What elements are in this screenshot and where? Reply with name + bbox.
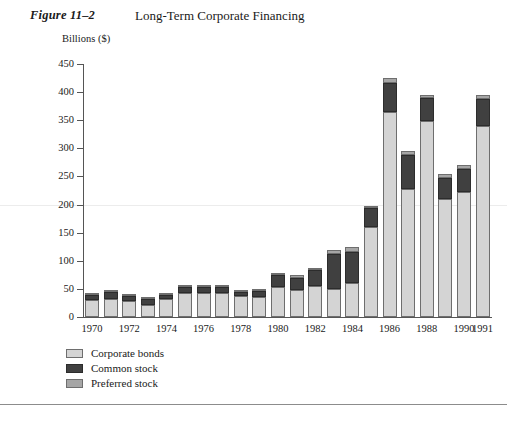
bar-segment-corporate-bonds	[290, 290, 304, 317]
y-axis-tick-label: 250	[38, 171, 74, 181]
bar-segment-preferred-stock	[197, 285, 211, 287]
legend-swatch-corporate-bonds	[66, 349, 83, 358]
bar-segment-common-stock	[122, 296, 136, 302]
y-axis-tick-label: 300	[38, 143, 74, 153]
bar-segment-preferred-stock	[271, 273, 285, 276]
x-axis-tick-label: 1976	[187, 322, 221, 335]
bar-1977	[215, 64, 229, 317]
bar-segment-common-stock	[290, 278, 304, 290]
y-axis-tick-label: 450	[38, 59, 74, 69]
bar-1982	[308, 64, 322, 317]
bar-segment-preferred-stock	[383, 78, 397, 82]
bar-1983	[327, 64, 341, 317]
legend-item-preferred-stock: Preferred stock	[66, 377, 286, 391]
bar-1972	[122, 64, 136, 317]
bar-segment-common-stock	[234, 292, 248, 296]
bar-segment-common-stock	[476, 99, 490, 125]
x-axis-tick-label: 1970	[75, 322, 109, 335]
bar-segment-corporate-bonds	[215, 293, 229, 317]
x-axis-tick-label: 1986	[373, 322, 407, 335]
y-axis-tick	[77, 317, 83, 318]
bar-segment-preferred-stock	[104, 290, 118, 292]
bar-segment-common-stock	[85, 295, 99, 301]
bar-segment-preferred-stock	[327, 250, 341, 254]
bar-segment-corporate-bonds	[252, 297, 266, 317]
x-axis-tick-label: 1982	[298, 322, 332, 335]
bar-segment-common-stock	[438, 178, 452, 199]
bar-segment-preferred-stock	[234, 290, 248, 292]
bar-segment-preferred-stock	[122, 294, 136, 296]
y-axis-tick-label: 0	[38, 312, 74, 322]
bar-1971	[104, 64, 118, 317]
bar-1978	[234, 64, 248, 317]
bar-segment-preferred-stock	[290, 275, 304, 278]
bar-segment-preferred-stock	[457, 165, 471, 169]
bar-segment-preferred-stock	[178, 285, 192, 287]
bar-segment-corporate-bonds	[308, 286, 322, 317]
bar-segment-corporate-bonds	[420, 121, 434, 317]
bar-segment-common-stock	[420, 98, 434, 121]
bar-segment-common-stock	[178, 287, 192, 293]
bar-1984	[345, 64, 359, 317]
y-axis-tick-label: 100	[38, 256, 74, 266]
y-axis-tick-label: 50	[38, 284, 74, 294]
bar-1970	[85, 64, 99, 317]
bar-segment-preferred-stock	[420, 95, 434, 98]
bar-segment-corporate-bonds	[178, 293, 192, 317]
legend-label: Corporate bonds	[91, 346, 164, 360]
bar-1974	[159, 64, 173, 317]
bar-segment-common-stock	[327, 254, 341, 289]
chart-legend: Corporate bondsCommon stockPreferred sto…	[66, 347, 286, 392]
x-axis-tick-label: 1991	[466, 322, 500, 335]
bar-segment-common-stock	[345, 252, 359, 283]
bar-1981	[290, 64, 304, 317]
bar-1980	[271, 64, 285, 317]
bar-segment-corporate-bonds	[383, 112, 397, 317]
bar-1991	[476, 64, 490, 317]
x-axis-tick-label: 1978	[224, 322, 258, 335]
x-axis-tick-label: 1972	[112, 322, 146, 335]
bar-segment-corporate-bonds	[271, 287, 285, 317]
legend-swatch-common-stock	[66, 364, 83, 373]
bar-1989	[438, 64, 452, 317]
bar-1979	[252, 64, 266, 317]
legend-label: Preferred stock	[91, 376, 158, 390]
bar-segment-corporate-bonds	[141, 305, 155, 317]
legend-item-common-stock: Common stock	[66, 362, 286, 376]
bar-segment-preferred-stock	[215, 285, 229, 287]
bar-1975	[178, 64, 192, 317]
y-axis-tick-label: 350	[38, 115, 74, 125]
bar-segment-common-stock	[159, 295, 173, 299]
bar-segment-common-stock	[383, 83, 397, 112]
bar-segment-common-stock	[308, 270, 322, 285]
bar-segment-corporate-bonds	[476, 126, 490, 317]
bar-segment-corporate-bonds	[197, 293, 211, 317]
x-axis-line	[83, 317, 492, 318]
bar-segment-preferred-stock	[345, 247, 359, 251]
x-axis-tick-label: 1974	[149, 322, 183, 335]
bar-segment-corporate-bonds	[364, 227, 378, 317]
plot-bars	[83, 64, 492, 317]
x-axis-tick-label: 1980	[261, 322, 295, 335]
bar-segment-preferred-stock	[141, 297, 155, 299]
bar-segment-preferred-stock	[252, 289, 266, 291]
bar-segment-common-stock	[252, 291, 266, 297]
y-axis-tick-label: 150	[38, 228, 74, 238]
bar-segment-common-stock	[271, 275, 285, 286]
bar-segment-corporate-bonds	[234, 296, 248, 317]
bar-segment-common-stock	[215, 287, 229, 293]
bar-segment-common-stock	[197, 287, 211, 293]
x-axis-tick-label: 1984	[335, 322, 369, 335]
bar-1988	[420, 64, 434, 317]
bar-1973	[141, 64, 155, 317]
footer-rule	[0, 404, 507, 405]
bar-segment-preferred-stock	[159, 293, 173, 295]
bar-1987	[401, 64, 415, 317]
bar-1985	[364, 64, 378, 317]
bar-1986	[383, 64, 397, 317]
bar-segment-preferred-stock	[364, 206, 378, 208]
bar-segment-common-stock	[457, 169, 471, 193]
bar-segment-corporate-bonds	[159, 299, 173, 317]
bar-segment-corporate-bonds	[457, 192, 471, 317]
bar-segment-preferred-stock	[476, 95, 490, 99]
